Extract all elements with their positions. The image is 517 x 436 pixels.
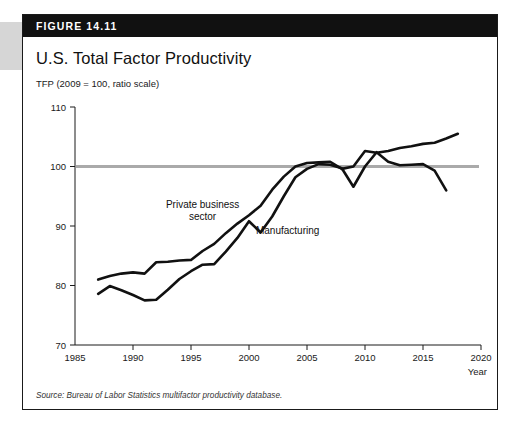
x-axis-ticks: 19851990199520002005201020152020 (64, 345, 491, 363)
line-chart-svg: 708090100110 198519901995200020052010201… (23, 93, 497, 378)
svg-text:70: 70 (55, 340, 66, 351)
svg-text:110: 110 (51, 102, 66, 113)
svg-text:2005: 2005 (296, 352, 317, 363)
svg-text:90: 90 (55, 221, 66, 232)
axis-units-note: TFP (2009 = 100, ratio scale) (36, 78, 497, 89)
figure-banner: FIGURE 14.11 (23, 15, 497, 37)
chart-plot-area: 708090100110 198519901995200020052010201… (23, 93, 497, 378)
svg-text:2020: 2020 (470, 352, 491, 363)
svg-text:1990: 1990 (122, 352, 143, 363)
y-axis-ticks: 708090100110 (50, 102, 75, 351)
x-axis-title: Year (468, 366, 487, 377)
figure-source-note: Source: Bureau of Labor Statistics multi… (36, 391, 282, 400)
svg-text:2010: 2010 (354, 352, 375, 363)
svg-text:1985: 1985 (64, 352, 85, 363)
svg-text:1995: 1995 (180, 352, 201, 363)
figure-card: FIGURE 14.11 U.S. Total Factor Productiv… (22, 14, 498, 410)
figure-title: U.S. Total Factor Productivity (36, 49, 497, 68)
svg-text:2000: 2000 (238, 352, 259, 363)
svg-text:80: 80 (55, 280, 66, 291)
svg-text:100: 100 (50, 161, 66, 172)
svg-text:Private business: Private business (166, 199, 239, 210)
svg-text:2015: 2015 (412, 352, 433, 363)
svg-text:Manufacturing: Manufacturing (256, 225, 319, 236)
figure-number-label: FIGURE 14.11 (36, 20, 117, 32)
svg-text:sector: sector (189, 211, 217, 222)
